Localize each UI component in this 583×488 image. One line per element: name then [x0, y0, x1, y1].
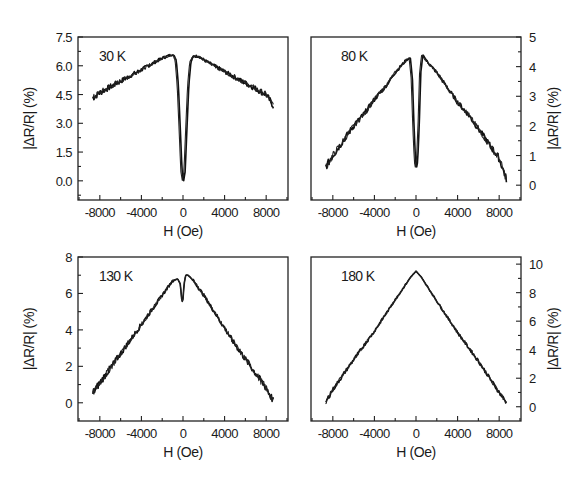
y-axis-title: |ΔR/R| (%)	[21, 308, 37, 370]
x-tick-label: -8000	[318, 426, 349, 441]
y-tick-label: 4	[529, 343, 536, 358]
y-tick-label: 0.0	[56, 174, 73, 189]
x-tick-label: 0	[180, 205, 187, 220]
y-axis-title: |ΔR/R| (%)	[21, 87, 37, 149]
y-tick-label: 2	[529, 371, 536, 386]
y-tick-label: 6	[529, 314, 536, 329]
y-tick-label: 4	[65, 323, 72, 338]
panel-30k: -8000-40000400080000.01.53.04.56.07.530 …	[21, 30, 288, 239]
x-tick-label: 8000	[486, 205, 513, 220]
y-axis-title: |ΔR/R| (%)	[545, 87, 561, 149]
y-tick-label: 2	[529, 119, 536, 134]
x-tick-label: 4000	[444, 426, 471, 441]
data-curve	[326, 271, 507, 403]
y-tick-label: 4.5	[56, 88, 73, 103]
temperature-label: 130 K	[99, 268, 134, 284]
y-tick-label: 10	[529, 257, 543, 272]
x-tick-label: 4000	[211, 205, 238, 220]
x-tick-label: 4000	[211, 426, 238, 441]
data-curve	[93, 55, 274, 181]
y-tick-label: 6.0	[56, 59, 73, 74]
y-tick-label: 1	[529, 149, 536, 164]
y-tick-label: 3.0	[56, 116, 73, 131]
x-axis-title: H (Oe)	[163, 223, 203, 239]
x-tick-label: -8000	[85, 205, 116, 220]
y-tick-label: 8	[529, 286, 536, 301]
temperature-label: 180 K	[341, 268, 376, 284]
x-tick-label: -8000	[318, 205, 349, 220]
y-tick-label: 8	[65, 250, 72, 265]
x-tick-label: 0	[180, 426, 187, 441]
y-tick-label: 3	[529, 89, 536, 104]
y-tick-label: 0	[65, 396, 72, 411]
x-tick-label: 0	[413, 426, 420, 441]
y-tick-label: 0	[529, 400, 536, 415]
x-axis-title: H (Oe)	[396, 444, 436, 460]
x-tick-label: 0	[413, 205, 420, 220]
data-curve	[326, 55, 507, 179]
x-tick-label: -4000	[126, 205, 157, 220]
y-tick-label: 0	[529, 178, 536, 193]
x-tick-label: 8000	[253, 426, 280, 441]
x-axis-title: H (Oe)	[163, 444, 203, 460]
y-tick-label: 5	[529, 30, 536, 45]
y-tick-label: 2	[65, 359, 72, 374]
panel-130k: -8000-400004000800002468130 KH (Oe)|ΔR/R…	[21, 250, 288, 460]
temperature-label: 30 K	[99, 48, 127, 64]
temperature-label: 80 K	[341, 48, 369, 64]
figure: -8000-40000400080000.01.53.04.56.07.530 …	[0, 0, 583, 488]
x-tick-label: -8000	[85, 426, 116, 441]
x-tick-label: 8000	[253, 205, 280, 220]
panel-180k: -8000-40000400080000246810180 KH (Oe)|ΔR…	[311, 257, 561, 460]
x-tick-label: -4000	[359, 205, 390, 220]
x-tick-label: 8000	[486, 426, 513, 441]
data-curve	[326, 271, 507, 404]
x-tick-label: 4000	[444, 205, 471, 220]
y-tick-label: 4	[529, 60, 536, 75]
y-tick-label: 1.5	[56, 145, 73, 160]
data-curve	[93, 275, 274, 401]
x-axis-title: H (Oe)	[396, 223, 436, 239]
y-tick-label: 6	[65, 286, 72, 301]
data-curve	[93, 55, 274, 181]
x-tick-label: -4000	[359, 426, 390, 441]
y-axis-title: |ΔR/R| (%)	[545, 308, 561, 370]
panel-80k: -8000-400004000800001234580 KH (Oe)|ΔR/R…	[311, 30, 561, 239]
y-tick-label: 7.5	[56, 30, 73, 45]
x-tick-label: -4000	[126, 426, 157, 441]
